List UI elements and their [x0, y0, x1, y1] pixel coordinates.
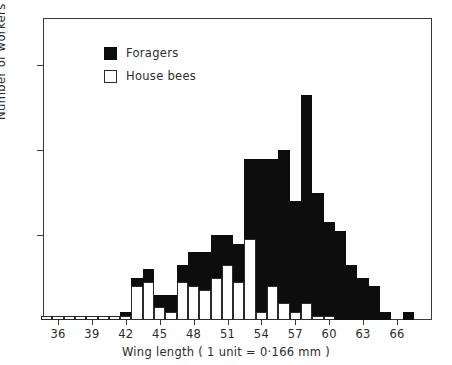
- bar-segment-house-bees: [165, 312, 176, 321]
- bar-segment-foragers: [346, 265, 357, 320]
- bar-63: [357, 278, 368, 321]
- bar-segment-foragers: [278, 150, 289, 303]
- bar-segment-foragers: [357, 278, 368, 321]
- bar-45: [154, 295, 165, 321]
- bar-series-container: [0, 0, 452, 365]
- bar-segment-house-bees: [109, 316, 120, 320]
- legend-item-foragers: Foragers: [104, 46, 196, 60]
- bar-47: [177, 265, 188, 320]
- bar-segment-house-bees: [41, 316, 52, 320]
- bar-65: [380, 312, 391, 321]
- bar-35: [41, 316, 52, 320]
- bar-64: [369, 286, 380, 320]
- bar-segment-house-bees: [324, 316, 335, 320]
- bar-61: [335, 231, 346, 320]
- bar-segment-foragers: [403, 312, 414, 321]
- bar-segment-house-bees: [120, 316, 131, 320]
- bar-segment-foragers: [120, 312, 131, 316]
- legend-item-house-bees: House bees: [104, 69, 196, 83]
- bar-58: [301, 95, 312, 320]
- histogram-figure: Number of workers 204060 363942454851545…: [0, 0, 452, 365]
- bar-segment-house-bees: [188, 286, 199, 320]
- bar-segment-foragers: [267, 159, 278, 287]
- bar-41: [109, 316, 120, 320]
- bar-segment-foragers: [233, 244, 244, 282]
- legend-swatch-house-bees-icon: [104, 70, 117, 83]
- bar-segment-foragers: [131, 278, 142, 287]
- bar-segment-foragers: [335, 231, 346, 320]
- bar-segment-foragers: [312, 193, 323, 316]
- bar-segment-foragers: [154, 295, 165, 308]
- bar-51: [222, 235, 233, 320]
- bar-56: [278, 150, 289, 320]
- bar-42: [120, 312, 131, 321]
- bar-62: [346, 265, 357, 320]
- legend-label-house-bees: House bees: [126, 69, 196, 83]
- bar-segment-foragers: [143, 269, 154, 282]
- bar-52: [233, 244, 244, 321]
- legend-label-foragers: Foragers: [126, 46, 179, 60]
- bar-segment-foragers: [211, 235, 222, 278]
- bar-50: [211, 235, 222, 320]
- bar-segment-house-bees: [256, 312, 267, 321]
- bar-segment-foragers: [222, 235, 233, 265]
- bar-segment-house-bees: [143, 282, 154, 320]
- bar-segment-house-bees: [154, 307, 165, 320]
- bar-57: [290, 201, 301, 320]
- bar-segment-foragers: [188, 252, 199, 286]
- bar-segment-house-bees: [267, 286, 278, 320]
- bar-segment-foragers: [290, 201, 301, 312]
- bar-49: [199, 252, 210, 320]
- bar-segment-house-bees: [222, 265, 233, 320]
- bar-segment-foragers: [380, 312, 391, 321]
- bar-segment-foragers: [165, 295, 176, 312]
- bar-44: [143, 269, 154, 320]
- bar-segment-house-bees: [233, 282, 244, 320]
- bar-37: [64, 316, 75, 320]
- bar-38: [75, 316, 86, 320]
- bar-segment-house-bees: [64, 316, 75, 320]
- bar-segment-house-bees: [290, 312, 301, 321]
- bar-segment-foragers: [244, 159, 255, 240]
- bar-39: [86, 316, 97, 320]
- bar-segment-foragers: [256, 159, 267, 312]
- bar-segment-foragers: [324, 222, 335, 316]
- bar-segment-house-bees: [278, 303, 289, 320]
- bar-segment-house-bees: [131, 286, 142, 320]
- bar-segment-house-bees: [86, 316, 97, 320]
- bar-59: [312, 193, 323, 321]
- bar-segment-house-bees: [211, 278, 222, 321]
- bar-segment-foragers: [301, 95, 312, 303]
- bar-46: [165, 295, 176, 321]
- bar-segment-house-bees: [312, 316, 323, 320]
- bar-36: [52, 316, 63, 320]
- bar-60: [324, 222, 335, 320]
- bar-53: [244, 159, 255, 321]
- bar-segment-house-bees: [75, 316, 86, 320]
- bar-segment-house-bees: [98, 316, 109, 320]
- bar-54: [256, 159, 267, 321]
- bar-segment-foragers: [199, 252, 210, 290]
- legend: Foragers House bees: [104, 46, 196, 92]
- bar-segment-house-bees: [301, 303, 312, 320]
- bar-43: [131, 278, 142, 321]
- bar-55: [267, 159, 278, 321]
- bar-segment-house-bees: [177, 282, 188, 320]
- legend-swatch-foragers-icon: [104, 47, 117, 60]
- bar-67: [403, 312, 414, 321]
- bar-segment-house-bees: [244, 239, 255, 320]
- bar-segment-foragers: [369, 286, 380, 320]
- bar-48: [188, 252, 199, 320]
- bar-40: [98, 316, 109, 320]
- bar-segment-house-bees: [52, 316, 63, 320]
- bar-segment-foragers: [177, 265, 188, 282]
- bar-segment-house-bees: [199, 290, 210, 320]
